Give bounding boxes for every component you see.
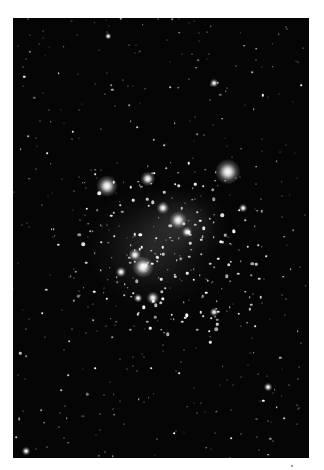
star bbox=[259, 449, 260, 450]
star bbox=[202, 227, 206, 231]
star bbox=[57, 244, 59, 246]
star bbox=[120, 18, 122, 19]
star bbox=[96, 434, 97, 435]
star bbox=[100, 430, 101, 431]
star bbox=[294, 152, 295, 153]
star bbox=[72, 139, 73, 140]
star bbox=[239, 250, 240, 251]
star bbox=[245, 219, 247, 221]
star bbox=[127, 287, 129, 289]
star bbox=[175, 184, 177, 186]
star bbox=[255, 59, 256, 60]
star bbox=[113, 414, 115, 416]
star bbox=[194, 20, 195, 21]
star bbox=[171, 197, 172, 198]
star bbox=[144, 329, 145, 330]
star bbox=[260, 401, 261, 402]
star bbox=[94, 83, 95, 84]
star bbox=[215, 411, 217, 413]
star bbox=[232, 385, 233, 386]
star bbox=[28, 178, 30, 180]
star bbox=[229, 306, 231, 308]
star bbox=[83, 287, 85, 289]
star bbox=[123, 79, 124, 80]
star bbox=[177, 184, 181, 188]
star bbox=[216, 318, 219, 321]
bright-star bbox=[215, 159, 241, 185]
star bbox=[63, 46, 65, 48]
star bbox=[286, 244, 287, 245]
star bbox=[47, 195, 48, 196]
star bbox=[162, 246, 165, 249]
star bbox=[90, 230, 92, 232]
star bbox=[113, 393, 115, 395]
star bbox=[163, 332, 165, 334]
star bbox=[209, 331, 211, 333]
star bbox=[199, 220, 202, 223]
star bbox=[210, 449, 211, 450]
star bbox=[40, 410, 42, 412]
star bbox=[42, 31, 43, 32]
star bbox=[139, 184, 141, 186]
star bbox=[305, 285, 307, 287]
star bbox=[126, 237, 127, 238]
star bbox=[124, 295, 126, 297]
star bbox=[202, 237, 204, 239]
star bbox=[28, 227, 29, 228]
corner-mark bbox=[291, 465, 293, 467]
star bbox=[178, 18, 179, 19]
star bbox=[140, 51, 141, 52]
star bbox=[132, 356, 133, 357]
star bbox=[220, 214, 224, 218]
star bbox=[257, 245, 259, 247]
star bbox=[200, 239, 203, 242]
star bbox=[302, 47, 303, 48]
star bbox=[103, 292, 105, 294]
star bbox=[204, 169, 206, 171]
star bbox=[129, 104, 131, 106]
star bbox=[136, 126, 138, 128]
star bbox=[116, 163, 117, 164]
star bbox=[147, 166, 149, 168]
star bbox=[190, 270, 191, 271]
star bbox=[283, 236, 285, 238]
star bbox=[169, 237, 171, 239]
star bbox=[253, 293, 254, 294]
star bbox=[75, 271, 78, 274]
star bbox=[45, 289, 47, 291]
star bbox=[267, 420, 268, 421]
star bbox=[210, 317, 212, 319]
star bbox=[233, 303, 234, 304]
star bbox=[194, 224, 197, 227]
star bbox=[82, 416, 83, 417]
star bbox=[106, 325, 107, 326]
star bbox=[36, 448, 37, 449]
star bbox=[251, 275, 253, 277]
star bbox=[160, 254, 162, 256]
star bbox=[137, 311, 140, 314]
star bbox=[64, 350, 65, 351]
star bbox=[134, 326, 135, 327]
star bbox=[173, 432, 175, 434]
star bbox=[109, 267, 111, 269]
star bbox=[49, 110, 50, 111]
star bbox=[70, 275, 72, 277]
star bbox=[260, 296, 263, 299]
star bbox=[17, 45, 18, 46]
star bbox=[113, 212, 116, 215]
star bbox=[209, 262, 212, 265]
star bbox=[133, 233, 136, 236]
star bbox=[197, 60, 199, 62]
star bbox=[84, 182, 86, 184]
star bbox=[129, 186, 132, 189]
star bbox=[193, 269, 195, 271]
star bbox=[176, 430, 177, 431]
star bbox=[284, 314, 285, 315]
star bbox=[36, 137, 37, 138]
star bbox=[71, 329, 72, 330]
star bbox=[229, 280, 231, 282]
star bbox=[297, 405, 298, 406]
star bbox=[115, 106, 116, 107]
star bbox=[194, 172, 195, 173]
star bbox=[262, 400, 264, 402]
